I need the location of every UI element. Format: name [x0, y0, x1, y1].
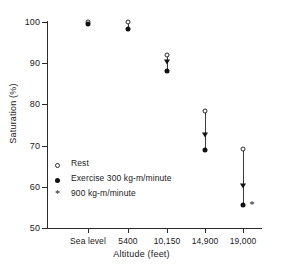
connector-19000 [243, 149, 244, 205]
y-tick-90 [42, 63, 47, 64]
y-tick-label-60: 60 [16, 183, 40, 192]
legend-item-900: * 900 kg-m/minute [55, 186, 225, 201]
saturation-altitude-chart: 50 60 70 80 90 100 Sea level 5400 10,150… [0, 0, 283, 268]
y-tick-70 [42, 146, 47, 147]
legend-asterisk-icon: * [55, 187, 60, 201]
legend-item-exercise-300: Exercise 300 kg-m/minute [55, 171, 225, 186]
data-point-exercise900-10150 [164, 60, 170, 65]
x-tick-14900 [205, 228, 206, 233]
data-point-exercise300-10150 [165, 69, 170, 74]
x-tick-10150 [167, 228, 168, 233]
y-tick-50 [42, 228, 47, 229]
y-tick-100 [42, 22, 47, 23]
y-tick-label-50-wrap: 50 [10, 224, 40, 233]
y-tick-80 [42, 104, 47, 105]
x-tick-5400 [128, 228, 129, 233]
data-point-exercise300-sea-level [86, 22, 91, 27]
legend-label-rest: Rest [71, 156, 89, 171]
x-tick-19000 [243, 228, 244, 233]
y-tick-label-80: 80 [16, 100, 40, 109]
y-tick-label-70: 70 [16, 142, 40, 151]
asterisk-annotation-19000: * [250, 202, 255, 208]
x-tick-label-19000: 19,000 [218, 236, 268, 246]
legend: Rest Exercise 300 kg-m/minute * 900 kg-m… [55, 156, 225, 201]
data-point-exercise300-14900 [203, 148, 208, 153]
y-axis-line [47, 21, 48, 229]
x-axis-title: Altitude (feet) [0, 249, 283, 260]
x-axis-line [47, 228, 262, 229]
legend-open-circle-icon [55, 163, 60, 168]
data-point-rest-10150 [165, 53, 170, 58]
data-point-exercise900-19000 [240, 184, 246, 189]
legend-filled-circle-icon [55, 178, 60, 183]
y-tick-label-50: 50 [16, 224, 40, 233]
y-tick-label-60-wrap: 60 [10, 183, 40, 192]
data-point-exercise900-14900 [202, 133, 208, 138]
connector-14900 [205, 111, 206, 150]
y-tick-60 [42, 187, 47, 188]
legend-label-900: 900 kg-m/minute [71, 186, 136, 201]
y-axis-title: Saturation (%) [8, 49, 19, 179]
x-tick-sea-level [88, 228, 89, 233]
y-tick-label-100: 100 [16, 18, 40, 27]
data-point-rest-19000 [241, 147, 246, 152]
data-point-rest-5400 [126, 20, 131, 25]
y-tick-label-100-wrap: 100 [10, 18, 40, 27]
data-point-exercise300-5400 [126, 27, 131, 32]
legend-label-exercise-300: Exercise 300 kg-m/minute [71, 171, 172, 186]
legend-item-rest: Rest [55, 156, 225, 171]
data-point-exercise300-19000 [241, 203, 246, 208]
data-point-rest-14900 [203, 109, 208, 114]
y-tick-label-90: 90 [16, 59, 40, 68]
